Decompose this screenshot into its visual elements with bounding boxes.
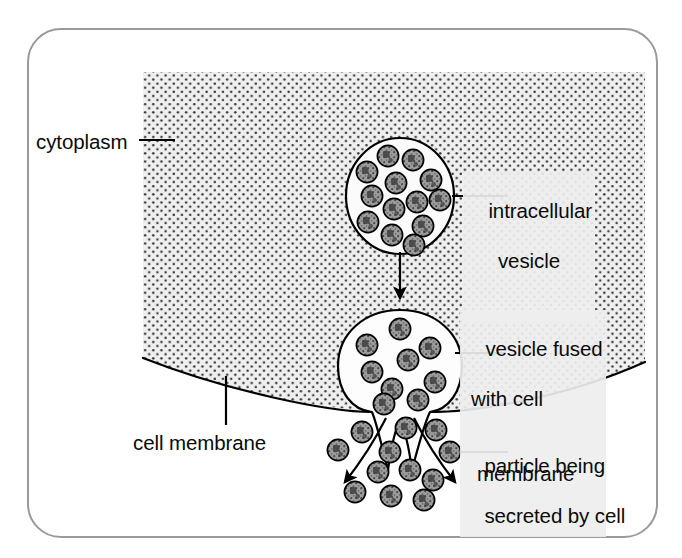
figure-canvas: cytoplasm intracellular vesicle vesicle …: [0, 0, 682, 558]
label-intracellular-vesicle: intracellular vesicle: [463, 172, 595, 324]
label-cell-membrane: cell membrane: [133, 430, 266, 455]
label-particle-secreted-line2: secreted by cell: [484, 504, 625, 527]
label-vesicle-fused-line1: vesicle fused: [485, 337, 602, 360]
label-vesicle-fused-line2: with cell: [463, 386, 603, 411]
label-cytoplasm: cytoplasm: [36, 129, 127, 154]
label-particle-secreted-line1: particle being: [484, 454, 605, 477]
label-intracellular-vesicle-line1: intracellular: [488, 199, 592, 222]
intracellular-vesicle: [346, 138, 454, 256]
label-intracellular-vesicle-line2: vesicle: [466, 248, 592, 273]
label-particle-secreted: particle being secreted by cell: [462, 428, 625, 553]
